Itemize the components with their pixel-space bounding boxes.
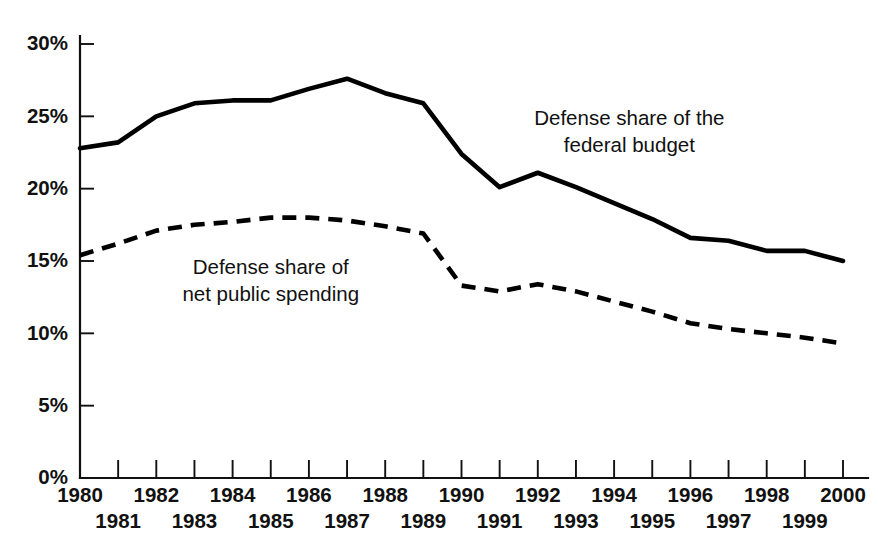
x-tick-label-lower: 1987 xyxy=(324,509,370,532)
line-chart: 30%25%20%15%10%5%0% 19801981198219831984… xyxy=(0,0,878,556)
federal-budget-label-line: federal budget xyxy=(564,133,695,156)
x-tick-label-upper: 1990 xyxy=(439,483,485,506)
x-tick-label-upper: 1986 xyxy=(286,483,332,506)
y-tick-label: 25% xyxy=(27,104,68,127)
x-tick-label-upper: 1996 xyxy=(668,483,714,506)
x-tick-label-upper: 1998 xyxy=(744,483,790,506)
x-tick-label-upper: 2000 xyxy=(820,483,866,506)
net-public-spending-label-line: Defense share of xyxy=(193,255,349,278)
x-tick-label-lower: 1991 xyxy=(477,509,523,532)
net-public-spending-label-line: net public spending xyxy=(182,282,359,305)
y-tick-label: 15% xyxy=(27,248,68,271)
x-tick-label-upper: 1984 xyxy=(210,483,256,506)
y-tick-label: 30% xyxy=(27,31,68,54)
y-tick-label: 20% xyxy=(27,176,68,199)
x-tick-label-lower: 1985 xyxy=(248,509,294,532)
x-tick-label-upper: 1992 xyxy=(515,483,561,506)
x-tick-label-upper: 1994 xyxy=(591,483,637,506)
x-tick-label-upper: 1988 xyxy=(362,483,408,506)
x-tick-label-upper: 1980 xyxy=(57,483,103,506)
chart-container: 30%25%20%15%10%5%0% 19801981198219831984… xyxy=(0,0,878,556)
y-tick-label: 5% xyxy=(38,393,68,416)
x-tick-label-lower: 1999 xyxy=(782,509,828,532)
x-tick-label-lower: 1993 xyxy=(553,509,599,532)
y-tick-label: 10% xyxy=(27,321,68,344)
x-tick-label-lower: 1983 xyxy=(172,509,218,532)
x-tick-label-lower: 1997 xyxy=(706,509,752,532)
x-tick-label-lower: 1981 xyxy=(95,509,141,532)
federal-budget-label-line: Defense share of the xyxy=(534,106,724,129)
x-tick-label-lower: 1989 xyxy=(401,509,447,532)
x-tick-label-lower: 1995 xyxy=(629,509,675,532)
x-tick-label-upper: 1982 xyxy=(133,483,179,506)
chart-background xyxy=(0,0,878,556)
